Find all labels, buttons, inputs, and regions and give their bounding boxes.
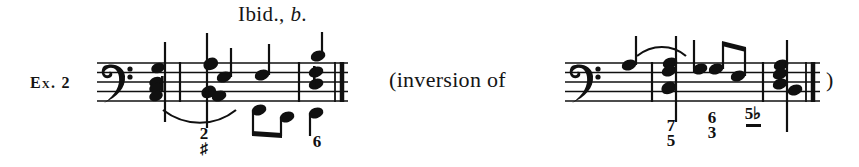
chord-final-staff-1 (307, 49, 327, 121)
beamed-eighths-staff-1 (250, 103, 296, 125)
bass-clef-staff-1 (102, 64, 133, 103)
slur-staff-1 (163, 110, 236, 123)
beam-staff-1 (252, 131, 282, 138)
tie-staff-2 (637, 47, 686, 56)
notes-measure-2-staff-2 (691, 62, 747, 84)
bass-clef-staff-2 (570, 64, 601, 103)
music-example-figure: Ibid., b. Ex. 2 (inversion of ) 2 ♯ 6 7 … (0, 0, 859, 167)
beam-staff-2 (722, 41, 746, 52)
music-notation-engraving (0, 0, 859, 167)
chord-1-staff-1 (148, 61, 166, 103)
